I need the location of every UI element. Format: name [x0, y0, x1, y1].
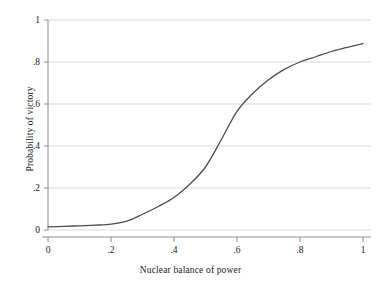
x-axis-title: Nuclear balance of power	[0, 265, 381, 275]
x-tick-label-.4: .4	[170, 245, 177, 255]
y-tick-label-0: 0	[35, 225, 40, 235]
axis-lines-group	[42, 20, 371, 237]
x-axis-ticks-group: 0.2.4.6.81	[46, 237, 366, 255]
x-tick-label-.8: .8	[296, 245, 303, 255]
data-series-line	[48, 44, 363, 227]
x-tick-label-.2: .2	[107, 245, 114, 255]
x-tick-label-0: 0	[46, 245, 51, 255]
y-axis-title: Probability of victory	[25, 39, 35, 219]
line-chart-canvas: 0.2.4.6.81 0.2.4.6.81	[0, 0, 381, 287]
y-axis-ticks-group: 0.2.4.6.81	[33, 15, 48, 235]
x-tick-label-.6: .6	[233, 245, 240, 255]
y-tick-label-1: 1	[35, 15, 40, 25]
chart-figure: 0.2.4.6.81 0.2.4.6.81 Nuclear balance of…	[0, 0, 381, 287]
x-tick-label-1: 1	[361, 245, 366, 255]
gridlines-group	[48, 20, 371, 230]
